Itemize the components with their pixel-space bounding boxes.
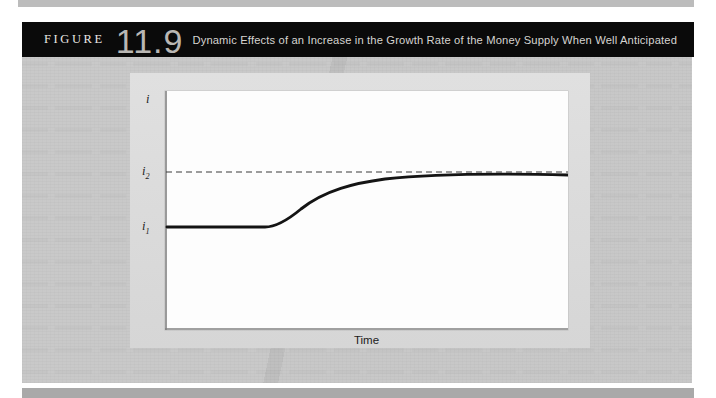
page-bottom-strip: [22, 388, 694, 398]
figure-label: FIGURE: [44, 32, 105, 47]
line-chart-svg: [165, 91, 568, 330]
y-axis-label-i2: i2: [142, 165, 150, 181]
interest-rate-curve: [167, 174, 568, 227]
y-axis-label-i: i: [146, 93, 149, 106]
y-axis-label-i1: i1: [142, 220, 150, 236]
figure-header-bar: FIGURE 11.9 Dynamic Effects of an Increa…: [22, 22, 694, 57]
figure-number: 11.9: [116, 24, 184, 58]
figure-title: Dynamic Effects of an Increase in the Gr…: [192, 34, 677, 46]
x-axis-label: Time: [165, 334, 568, 346]
plot-area: [165, 91, 568, 330]
figure-card: [130, 73, 590, 348]
page-top-strip: [18, 0, 694, 7]
